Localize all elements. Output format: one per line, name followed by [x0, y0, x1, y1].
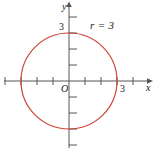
x-axis-label: x — [146, 83, 150, 93]
plot-canvas — [0, 0, 156, 153]
y-axis-arrow-icon — [66, 2, 72, 8]
curve-equation-label: r = 3 — [90, 20, 114, 31]
circle-graph-figure: y x O 3 3 r = 3 — [0, 0, 156, 153]
origin-label: O — [61, 84, 68, 94]
x-tick-label-3: 3 — [120, 84, 125, 94]
y-axis-label: y — [62, 2, 66, 12]
y-tick-label-3: 3 — [59, 22, 64, 32]
